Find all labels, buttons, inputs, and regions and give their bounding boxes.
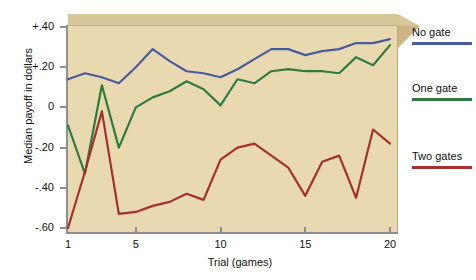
legend-label-one-gate: One gate	[412, 82, 476, 95]
legend-swatch-one-gate	[412, 98, 472, 101]
legend-swatch-two-gates	[412, 166, 472, 169]
series-lines	[0, 0, 476, 280]
y-axis-title: Median payoff in dollars	[22, 26, 34, 186]
legend-item-two-gates: Two gates	[412, 150, 476, 169]
legend-swatch-no-gate	[412, 42, 472, 45]
legend-item-one-gate: One gate	[412, 82, 476, 101]
series-line-two-gates	[68, 111, 390, 228]
x-axis-title: Trial (games)	[150, 256, 330, 268]
series-line-no-gate	[68, 39, 390, 83]
legend-label-two-gates: Two gates	[412, 150, 476, 163]
legend-label-no-gate: No gate	[412, 26, 476, 39]
chart-figure: +.40+.200-.20-.40-.60 15101520 Trial (ga…	[0, 0, 476, 280]
legend-item-no-gate: No gate	[412, 26, 476, 45]
